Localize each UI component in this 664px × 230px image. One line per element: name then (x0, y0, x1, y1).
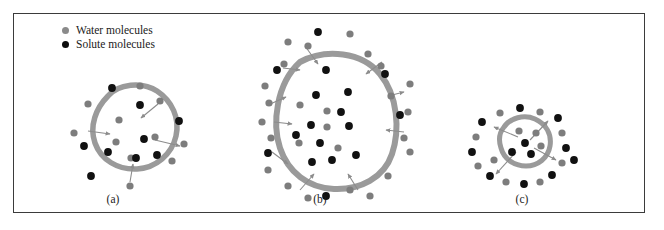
panel-caption-c: (c) (497, 193, 547, 205)
panel-caption-a: (a) (88, 193, 138, 205)
legend-item-solute: Solute molecules (62, 38, 262, 51)
solute-molecule-icon (62, 41, 69, 48)
legend-label-solute: Solute molecules (76, 38, 155, 51)
legend: Water molecules Solute molecules (62, 24, 262, 52)
water-molecule-icon (62, 27, 69, 34)
figure-root: Water molecules Solute molecules (a) (b)… (0, 0, 664, 230)
panel-caption-b: (b) (295, 193, 345, 205)
legend-label-water: Water molecules (76, 24, 153, 37)
legend-item-water: Water molecules (62, 24, 262, 37)
